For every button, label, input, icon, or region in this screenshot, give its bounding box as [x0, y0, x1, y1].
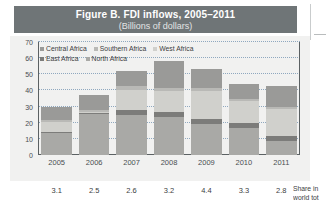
- bar-2007[interactable]: [116, 71, 147, 155]
- bar-segment-north-africa: [154, 117, 185, 155]
- bar-segment-west-africa: [229, 101, 260, 123]
- share-value-2006: 2.5: [89, 186, 99, 195]
- y-tick-label-0: 0: [29, 152, 33, 159]
- legend-label-southern-africa: Southern Africa: [100, 44, 146, 53]
- chart-plot-panel: 010203040506070 200520062007200820092010…: [10, 36, 310, 181]
- bar-segment-west-africa: [116, 90, 147, 110]
- share-caption: Share in world tot: [293, 185, 330, 202]
- legend-item-central-africa[interactable]: Central Africa: [40, 44, 87, 53]
- legend-swatch-southern-africa: [94, 47, 98, 51]
- legend-swatch-north-africa: [86, 57, 90, 61]
- legend-item-southern-africa[interactable]: Southern Africa: [94, 44, 146, 53]
- bar-segment-north-africa: [116, 115, 147, 155]
- x-tick-label-2008: 2008: [161, 158, 178, 167]
- legend-label-east-africa: East Africa: [46, 54, 79, 63]
- legend-item-west-africa[interactable]: West Africa: [153, 44, 193, 53]
- bar-segment-west-africa: [154, 91, 185, 111]
- x-tick-label-2006: 2006: [86, 158, 103, 167]
- bar-segment-west-africa: [41, 122, 72, 131]
- share-value-2005: 3.1: [51, 186, 61, 195]
- share-value-2007: 2.6: [126, 186, 136, 195]
- share-in-world-total-row: Share in world tot 3.12.52.63.24.43.32.8: [10, 186, 325, 210]
- bar-2006[interactable]: [79, 95, 110, 155]
- figure-title: Figure B. FDI inflows, 2005–2011: [76, 9, 235, 21]
- bar-slot-2011: [263, 42, 300, 155]
- y-tick-label-10: 10: [25, 135, 33, 142]
- x-tick-label-2010: 2010: [236, 158, 253, 167]
- bar-segment-north-africa: [191, 124, 222, 155]
- bar-segment-west-africa: [191, 91, 222, 119]
- y-axis-tick-labels: 010203040506070: [10, 42, 35, 155]
- share-value-2011: 2.8: [276, 186, 286, 195]
- legend-item-north-africa[interactable]: North Africa: [86, 54, 128, 63]
- bar-segment-central-africa: [154, 61, 185, 87]
- y-tick-label-50: 50: [25, 71, 33, 78]
- legend-item-east-africa[interactable]: East Africa: [40, 54, 79, 63]
- x-tick-label-2011: 2011: [273, 158, 289, 167]
- bar-segment-north-africa: [266, 141, 297, 155]
- bar-2005[interactable]: [41, 107, 72, 155]
- y-tick-label-20: 20: [25, 119, 33, 126]
- share-value-2010: 3.3: [239, 186, 249, 195]
- figure-subtitle: (Billions of dollars): [119, 21, 193, 32]
- share-value-2009: 4.4: [201, 186, 211, 195]
- bar-slot-2010: [225, 42, 262, 155]
- share-value-2008: 3.2: [164, 186, 174, 195]
- bar-segment-north-africa: [229, 128, 260, 155]
- legend-swatch-central-africa: [40, 47, 44, 51]
- y-tick-label-60: 60: [25, 55, 33, 62]
- legend-row-1: Central AfricaSouthern AfricaWest Africa: [40, 44, 210, 53]
- y-tick-label-40: 40: [25, 87, 33, 94]
- x-tick-label-2009: 2009: [198, 158, 215, 167]
- figure-title-band: Figure B. FDI inflows, 2005–2011 (Billio…: [14, 6, 297, 33]
- legend-label-central-africa: Central Africa: [46, 44, 87, 53]
- bar-segment-central-africa: [266, 86, 297, 107]
- x-tick-label-2005: 2005: [48, 158, 65, 167]
- bar-segment-central-africa: [41, 107, 72, 121]
- y-tick-label-30: 30: [25, 103, 33, 110]
- legend-swatch-east-africa: [40, 57, 44, 61]
- legend-label-north-africa: North Africa: [92, 54, 128, 63]
- bar-2009[interactable]: [191, 69, 222, 155]
- bar-segment-central-africa: [191, 69, 222, 89]
- bar-2010[interactable]: [229, 84, 260, 155]
- share-caption-line1: Share in: [293, 185, 330, 194]
- legend-label-west-africa: West Africa: [159, 44, 193, 53]
- bar-segment-central-africa: [116, 71, 147, 86]
- x-axis-tick-labels: 2005200620072008200920102011: [38, 158, 300, 172]
- chart-legend: Central AfricaSouthern AfricaWest Africa…: [40, 44, 210, 64]
- legend-swatch-west-africa: [153, 47, 157, 51]
- y-tick-label-70: 70: [25, 39, 33, 46]
- bar-segment-central-africa: [229, 84, 260, 99]
- sliver-rule: [314, 34, 326, 35]
- bar-segment-west-africa: [266, 109, 297, 136]
- legend-row-2: East AfricaNorth Africa: [40, 54, 210, 63]
- bar-segment-north-africa: [41, 133, 72, 155]
- x-tick-label-2007: 2007: [123, 158, 140, 167]
- bar-2008[interactable]: [154, 61, 185, 155]
- share-caption-line2: world tot: [293, 194, 330, 203]
- adjacent-column-sliver: [310, 4, 326, 40]
- bar-segment-central-africa: [79, 95, 110, 109]
- bar-segment-north-africa: [79, 114, 110, 155]
- bar-2011[interactable]: [266, 86, 297, 155]
